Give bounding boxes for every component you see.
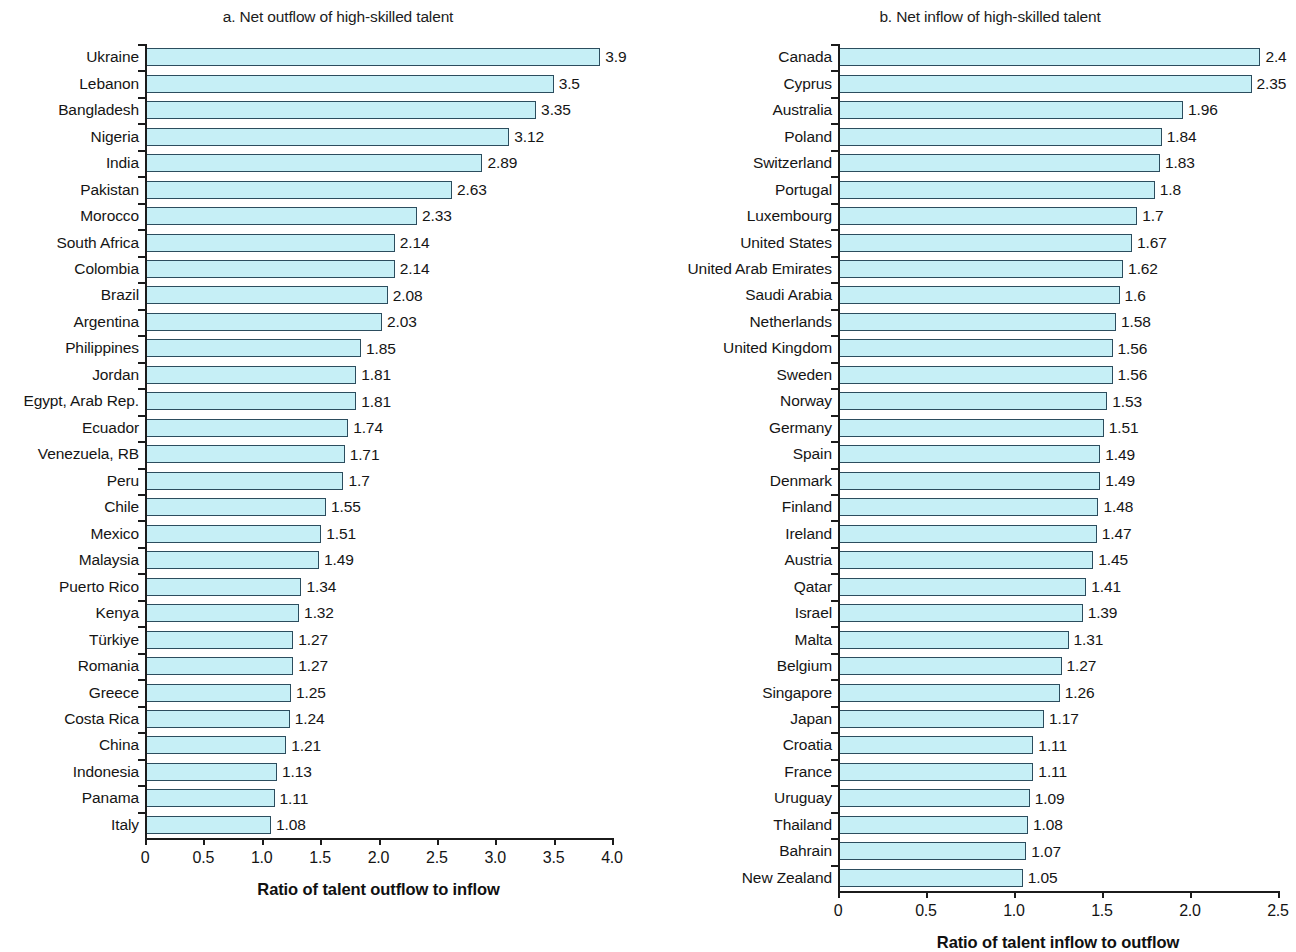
category-label: Puerto Rico [59,579,139,595]
bar-with-value: 1.05 [838,869,1058,887]
bar-value-label: 1.96 [1188,102,1218,118]
y-axis-tick [138,812,145,814]
bar [838,657,1062,675]
bar-with-value: 1.83 [838,154,1195,172]
bar-row: Costa Rica1.24 [0,706,648,732]
bar-with-value: 2.35 [838,75,1286,93]
bar-row: United States1.67 [648,229,1296,255]
bar-with-value: 1.13 [145,763,312,781]
x-axis-tick [320,838,322,845]
bar-row: Thailand1.08 [648,812,1296,838]
bar-with-value: 2.33 [145,207,452,225]
bar-row: Bahrain1.07 [648,838,1296,864]
bar-value-label: 1.45 [1098,552,1128,568]
bar-with-value: 1.17 [838,710,1079,728]
category-label: Japan [790,711,832,727]
y-axis-tick [138,415,145,417]
bar [838,631,1069,649]
bar [838,181,1155,199]
bar-value-label: 1.21 [291,738,321,754]
bar-with-value: 1.8 [838,181,1181,199]
y-axis-tick [138,759,145,761]
bar-row: Brazil2.08 [0,282,648,308]
bar-row: Türkiye1.27 [0,626,648,652]
category-label: Singapore [762,685,832,701]
y-axis-tick [138,362,145,364]
x-axis-tick [203,838,205,845]
bar-rows: Canada2.4Cyprus2.35Australia1.96Poland1.… [648,0,1296,903]
bar-with-value: 3.9 [145,48,627,66]
x-axis-tick [612,838,614,845]
y-axis-tick [831,547,838,549]
bar [838,498,1098,516]
category-label: United Kingdom [723,341,832,357]
bar-row: Panama1.11 [0,785,648,811]
bar-value-label: 3.12 [514,129,544,145]
bar-with-value: 1.31 [838,631,1103,649]
y-axis-tick [138,785,145,787]
x-axis-tick [1278,891,1280,898]
bar-row: Puerto Rico1.34 [0,573,648,599]
bar-with-value: 1.11 [145,789,308,807]
y-axis-tick [138,176,145,178]
bar-row: Germany1.51 [648,415,1296,441]
bar-value-label: 1.27 [1067,658,1097,674]
bar-with-value: 1.49 [145,551,354,569]
y-axis-tick [138,309,145,311]
bar-value-label: 2.63 [457,182,487,198]
bar-with-value: 1.27 [145,631,328,649]
bar-row: Sweden1.56 [648,362,1296,388]
bar-row: Morocco2.33 [0,203,648,229]
category-label: Lebanon [79,76,139,92]
y-axis-line [145,44,147,838]
bar [145,604,299,622]
bar-value-label: 1.11 [280,791,309,807]
bar [838,154,1160,172]
y-axis-tick [138,653,145,655]
y-axis-tick [831,388,838,390]
category-label: United States [740,235,832,251]
bar-value-label: 2.35 [1257,76,1287,92]
bar-with-value: 1.71 [145,445,379,463]
bar-row: Norway1.53 [648,388,1296,414]
bar [145,260,395,278]
bar [145,525,321,543]
bar-row: Bangladesh3.35 [0,97,648,123]
bar-value-label: 1.51 [326,526,356,542]
bar-value-label: 3.35 [541,102,571,118]
bar-value-label: 1.8 [1160,182,1181,198]
bar [838,260,1123,278]
y-axis-tick [831,282,838,284]
bar-row: Romania1.27 [0,653,648,679]
bar [145,736,286,754]
bar-with-value: 1.56 [838,366,1147,384]
bar-value-label: 1.7 [348,473,369,489]
y-axis-tick [138,732,145,734]
bar-value-label: 1.55 [331,499,361,515]
x-axis-tick [554,838,556,845]
bar-row: Mexico1.51 [0,520,648,546]
bar [145,419,348,437]
category-label: Sweden [777,367,832,383]
bar-with-value: 1.49 [838,472,1135,490]
y-axis-tick [831,626,838,628]
bar-with-value: 1.81 [145,392,391,410]
category-label: Egypt, Arab Rep. [23,394,139,410]
bar-row: Italy1.08 [0,812,648,838]
bar-value-label: 2.03 [387,314,417,330]
category-label: Panama [82,791,139,807]
category-label: New Zealand [742,870,832,886]
y-axis-tick [831,150,838,152]
bar-with-value: 1.81 [145,366,391,384]
category-label: India [106,155,139,171]
bar-with-value: 3.5 [145,75,580,93]
bar-row: Jordan1.81 [0,362,648,388]
y-axis-tick [831,256,838,258]
y-axis-tick [138,44,145,46]
category-label: Türkiye [89,632,139,648]
category-label: Luxembourg [747,208,832,224]
bar-row: Venezuela, RB1.71 [0,441,648,467]
category-label: Venezuela, RB [38,447,139,463]
bar [145,181,452,199]
y-axis-tick [138,494,145,496]
